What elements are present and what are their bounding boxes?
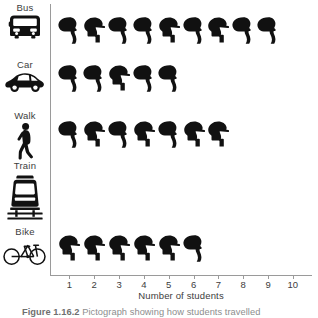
category-walk: Walk (0, 110, 50, 164)
student-head-icon (207, 120, 229, 148)
student-head-icon (207, 16, 229, 44)
student-head-icon (108, 120, 130, 148)
figure-caption: Figure 1.16.2 Pictograph showing how stu… (22, 306, 314, 318)
student-head-icon (83, 64, 105, 92)
student-head-icon (108, 64, 130, 92)
category-bus: Bus (0, 2, 50, 44)
student-head-icon (133, 120, 155, 148)
student-head-icon (83, 234, 105, 262)
figure-caption-number: Figure 1.16.2 (22, 307, 80, 317)
student-head-icon (232, 16, 254, 44)
student-head-icon (158, 234, 180, 262)
student-head-icon (158, 16, 180, 44)
category-label-train: Train (0, 160, 50, 171)
category-label-car: Car (0, 59, 50, 70)
category-car: Car (0, 59, 50, 99)
symbol-row-train (50, 176, 312, 210)
car-icon (0, 71, 50, 99)
category-bike: Bike (0, 226, 50, 270)
student-head-icon (158, 64, 180, 92)
student-head-icon (183, 120, 205, 148)
student-head-icon (58, 64, 80, 92)
symbol-row-walk (50, 120, 312, 154)
student-head-icon (257, 16, 279, 44)
student-head-icon (108, 234, 130, 262)
student-head-icon (183, 16, 205, 44)
student-head-icon (58, 120, 80, 148)
walk-icon (0, 122, 50, 164)
symbol-row-car (50, 64, 312, 98)
figure-caption-text: Pictograph showing how students travelle… (82, 307, 260, 317)
student-head-icon (83, 120, 105, 148)
student-head-icon (58, 234, 80, 262)
train-icon (0, 172, 50, 226)
student-head-icon (133, 16, 155, 44)
symbol-row-bike (50, 234, 312, 268)
student-head-icon (183, 234, 205, 262)
bus-icon (0, 14, 50, 44)
student-head-icon (83, 16, 105, 44)
student-head-icon (108, 16, 130, 44)
student-head-icon (158, 120, 180, 148)
category-label-bike: Bike (0, 226, 50, 237)
student-head-icon (133, 64, 155, 92)
symbol-row-bus (50, 16, 312, 50)
x-axis-title: Number of students (50, 290, 312, 301)
bike-icon (0, 238, 50, 270)
category-train: Train (0, 160, 50, 226)
category-label-walk: Walk (0, 110, 50, 121)
student-head-icon (58, 16, 80, 44)
category-label-bus: Bus (0, 2, 50, 13)
pictograph-figure: Bus Car (0, 0, 318, 318)
student-head-icon (133, 234, 155, 262)
